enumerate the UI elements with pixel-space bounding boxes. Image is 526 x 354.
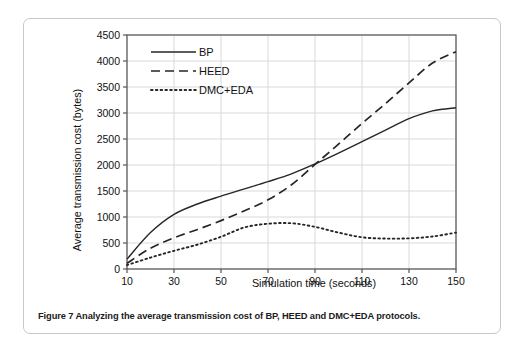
y-tick-label: 2500 [97,133,121,145]
legend-label-dmc-eda: DMC+EDA [199,84,254,96]
legend-label-bp: BP [199,46,214,58]
y-tick-label: 3500 [97,81,121,93]
x-tick-label: 150 [447,275,465,287]
plot-border [127,35,456,269]
chart-legend: BPHEEDDMC+EDA [151,46,254,96]
series-line-heed [127,52,456,264]
y-tick-label: 0 [114,263,120,275]
series-line-dmc-eda [127,223,456,265]
x-tick-label: 130 [400,275,418,287]
y-tick-label: 500 [102,237,120,249]
transmission-cost-line-chart: 050010001500200025003000350040004500 103… [24,19,502,297]
y-tick-label: 1000 [97,211,121,223]
x-tick-label: 10 [121,275,133,287]
legend-label-heed: HEED [199,65,230,77]
x-tick-label: 50 [215,275,227,287]
y-tick-label: 3000 [97,107,121,119]
y-axis-ticks: 050010001500200025003000350040004500 [97,29,127,275]
x-tick-label: 30 [168,275,180,287]
figure-caption: Figure 7 Analyzing the average transmiss… [24,297,502,335]
y-tick-label: 4500 [97,29,121,41]
figure-card: 050010001500200025003000350040004500 103… [23,18,501,334]
y-tick-label: 1500 [97,185,121,197]
chart-area: 050010001500200025003000350040004500 103… [24,19,502,297]
plot-frame [127,35,456,269]
y-tick-label: 4000 [97,55,121,67]
x-axis-title: Simulation time (seconds) [252,277,376,289]
gridlines-group [127,35,456,269]
y-tick-label: 2000 [97,159,121,171]
figure-caption-text: Figure 7 Analyzing the average transmiss… [38,311,420,321]
series-lines-group [127,52,456,265]
y-axis-title: Average transmission cost (bytes) [71,89,83,251]
